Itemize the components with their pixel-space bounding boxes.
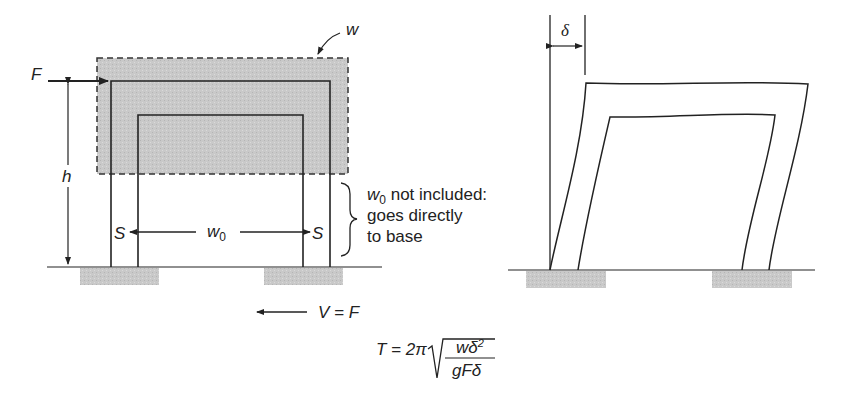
deformed-frame-outer	[550, 83, 808, 270]
force-label: F	[31, 65, 43, 84]
note-line-2: goes directly	[367, 206, 463, 225]
deformed-frame-inner	[578, 114, 775, 270]
note-line-1: w0 not included:	[367, 185, 487, 207]
footing-left	[80, 268, 159, 285]
tributary-mass-region	[97, 58, 348, 174]
period-formula: T = 2π wδ2 gFδ	[376, 337, 495, 380]
formula-lhs: T = 2π	[376, 340, 427, 359]
note-brace	[341, 183, 357, 256]
height-label: h	[62, 167, 71, 186]
right-deformed-frame-diagram: δ	[508, 15, 815, 288]
footing-right-right-diagram	[712, 271, 792, 288]
formula-numerator: wδ2	[456, 337, 484, 357]
left-frame-diagram: F w h S S w0 w0 not included: goes direc…	[31, 20, 487, 322]
formula-denominator: gFδ	[452, 361, 482, 380]
drift-label: δ	[561, 21, 570, 40]
note-line-3: to base	[367, 227, 423, 246]
footing-right	[264, 268, 343, 285]
weight-pointer-arrow	[318, 33, 340, 54]
support-right-label: S	[312, 224, 324, 243]
footing-left-right-diagram	[526, 271, 606, 288]
diagram-canvas: F w h S S w0 w0 not included: goes direc…	[0, 0, 842, 408]
weight-label: w	[346, 20, 360, 39]
shear-label: V = F	[318, 303, 361, 322]
support-left-label: S	[114, 224, 126, 243]
base-weight-label: w0	[207, 222, 226, 244]
